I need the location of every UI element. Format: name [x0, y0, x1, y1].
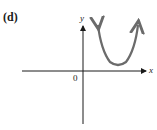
parabola-curve [98, 25, 138, 65]
graph [0, 0, 157, 130]
